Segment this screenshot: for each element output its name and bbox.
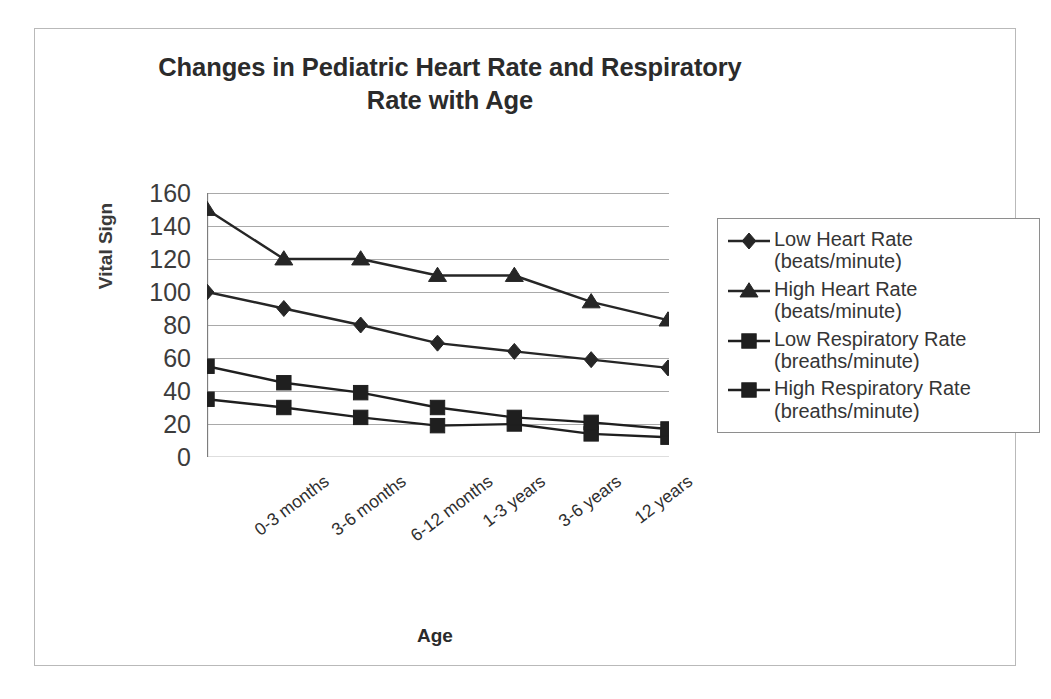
- data-point-square: [742, 383, 756, 397]
- data-point-square: [207, 359, 214, 373]
- y-axis-tick-label: 0: [125, 445, 191, 470]
- y-axis-tick-label: 140: [125, 214, 191, 239]
- data-point-diamond: [584, 352, 598, 368]
- data-point-square: [277, 376, 291, 390]
- data-point-square: [353, 385, 367, 399]
- chart-title: Changes in Pediatric Heart Rate and Resp…: [125, 51, 775, 117]
- x-axis-tick-label: 6-12 months: [406, 471, 496, 546]
- x-axis-tick-label: 3-6 months: [327, 471, 410, 540]
- legend-label-line-1: High Respiratory Rate: [774, 377, 971, 399]
- x-axis-tick-label: 12 years: [631, 471, 697, 528]
- legend-marker-svg: [726, 279, 772, 303]
- x-axis-title: Age: [335, 625, 535, 647]
- x-axis-tick-label: 3-6 years: [555, 471, 626, 532]
- legend-marker-svg: [726, 378, 772, 402]
- data-point-square: [584, 415, 598, 429]
- legend-marker-svg: [726, 229, 772, 253]
- chart-frame: Changes in Pediatric Heart Rate and Resp…: [34, 28, 1016, 666]
- y-axis-tick-label: 100: [125, 280, 191, 305]
- legend-label: High Respiratory Rate(breaths/minute): [772, 377, 971, 422]
- y-axis-tick-label: 20: [125, 412, 191, 437]
- data-point-square: [742, 333, 756, 347]
- data-point-square: [507, 410, 521, 424]
- legend-label-line-1: High Heart Rate: [774, 278, 917, 300]
- legend-label: Low Heart Rate(beats/minute): [772, 228, 913, 273]
- data-point-diamond: [431, 335, 445, 351]
- data-point-diamond: [207, 284, 214, 300]
- legend-entry[interactable]: Low Heart Rate(beats/minute): [726, 228, 1029, 273]
- data-point-diamond: [507, 343, 521, 359]
- y-axis-tick-label: 160: [125, 181, 191, 206]
- y-axis-tick-label: 60: [125, 346, 191, 371]
- legend-marker-square-icon: [726, 378, 772, 402]
- x-axis-tick-label: 0-3 months: [251, 471, 334, 540]
- y-axis-tick-label: 120: [125, 247, 191, 272]
- data-point-square: [353, 410, 367, 424]
- data-point-diamond: [661, 360, 669, 376]
- legend-marker-triangle-icon: [726, 279, 772, 303]
- legend-entry[interactable]: High Heart Rate(beats/minute): [726, 278, 1029, 323]
- data-point-diamond: [354, 317, 368, 333]
- y-axis-tick-label: 80: [125, 313, 191, 338]
- data-point-square: [430, 400, 444, 414]
- legend-marker-diamond-icon: [726, 229, 772, 253]
- legend-label-line-2: (breaths/minute): [774, 350, 966, 372]
- data-point-diamond: [277, 301, 291, 317]
- legend-label-line-2: (beats/minute): [774, 250, 913, 272]
- y-axis-title: Vital Sign: [95, 166, 117, 326]
- legend-label-line-2: (breaths/minute): [774, 400, 971, 422]
- data-point-diamond: [742, 233, 756, 249]
- legend-label-line-1: Low Heart Rate: [774, 228, 913, 250]
- plot-svg: [207, 193, 669, 457]
- legend-entry[interactable]: High Respiratory Rate(breaths/minute): [726, 377, 1029, 422]
- legend-label: Low Respiratory Rate(breaths/minute): [772, 328, 966, 373]
- data-point-square: [277, 400, 291, 414]
- data-point-triangle: [207, 201, 216, 215]
- data-point-square: [661, 422, 669, 436]
- legend-label: High Heart Rate(beats/minute): [772, 278, 917, 323]
- chart-title-line-2: Rate with Age: [367, 86, 533, 114]
- legend-marker-svg: [726, 329, 772, 353]
- legend-label-line-2: (beats/minute): [774, 300, 917, 322]
- series-1: [207, 284, 669, 376]
- legend-marker-square-icon: [726, 329, 772, 353]
- data-point-square: [430, 418, 444, 432]
- gridlines: [207, 194, 669, 458]
- plot-area: [207, 193, 669, 457]
- chart-legend: Low Heart Rate(beats/minute)High Heart R…: [717, 218, 1040, 433]
- y-axis-tick-label: 40: [125, 379, 191, 404]
- data-point-square: [207, 392, 214, 406]
- legend-entry[interactable]: Low Respiratory Rate(breaths/minute): [726, 328, 1029, 373]
- legend-label-line-1: Low Respiratory Rate: [774, 328, 966, 350]
- chart-title-line-1: Changes in Pediatric Heart Rate and Resp…: [158, 53, 741, 81]
